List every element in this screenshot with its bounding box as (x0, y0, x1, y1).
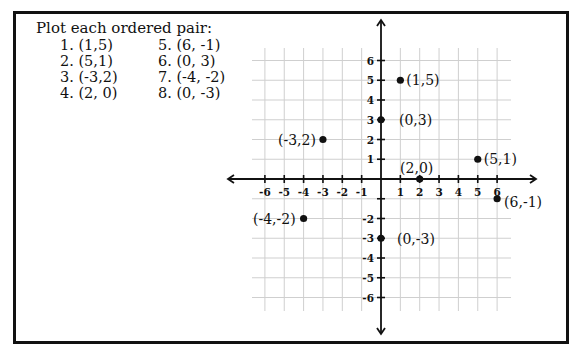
y-tick-label: -6 (362, 292, 374, 304)
y-tick-label: -5 (362, 272, 374, 284)
x-tick-label: 2 (416, 186, 423, 198)
point-marker (397, 77, 404, 84)
y-tick-label: -4 (362, 252, 374, 264)
point-label: (1,5) (406, 72, 439, 88)
x-tick-label: 1 (397, 186, 404, 198)
coordinate-plane: -6-5-4-3-2-1123456654321-2-3-4-5-6(1,5)(… (0, 0, 583, 356)
point-label: (5,1) (484, 151, 517, 167)
point-label: (0,3) (399, 112, 432, 128)
y-tick-label: 1 (367, 153, 374, 165)
x-tick-label: 5 (474, 186, 481, 198)
x-tick-label: -2 (336, 186, 348, 198)
y-tick-label: -3 (362, 232, 374, 244)
x-tick-label: -1 (356, 186, 368, 198)
point-label: (6,-1) (504, 194, 542, 210)
point-label: (2,0) (400, 160, 433, 176)
point-marker (377, 235, 384, 242)
y-tick-label: 2 (367, 134, 374, 146)
point-marker (494, 195, 501, 202)
point-label: (-3,2) (278, 132, 316, 148)
y-tick-label: -2 (362, 213, 374, 225)
point-marker (319, 136, 326, 143)
point-label: (0,-3) (397, 231, 435, 247)
x-tick-label: -4 (298, 186, 310, 198)
x-tick-label: -6 (259, 186, 271, 198)
x-tick-label: -3 (317, 186, 329, 198)
point-marker (416, 175, 423, 182)
y-tick-label: 5 (367, 74, 374, 86)
x-tick-label: -5 (278, 186, 290, 198)
x-tick-label: 4 (455, 186, 462, 198)
y-tick-label: 4 (367, 94, 374, 106)
point-marker (377, 116, 384, 123)
axes (228, 20, 536, 334)
point-marker (474, 156, 481, 163)
y-tick-label: 3 (367, 114, 374, 126)
x-tick-label: 3 (435, 186, 442, 198)
point-label: (-4,-2) (253, 211, 296, 227)
point-marker (300, 215, 307, 222)
y-tick-label: 6 (367, 55, 374, 67)
